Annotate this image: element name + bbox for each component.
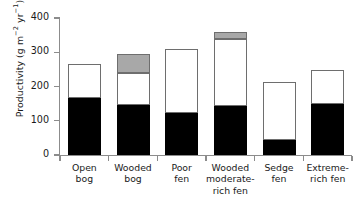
bar-segment-black[interactable]: [311, 104, 344, 155]
x-axis-label-line: rich fen: [199, 185, 261, 196]
bar-segment-black[interactable]: [68, 98, 101, 155]
x-axis-tick: [205, 156, 206, 161]
bar-group[interactable]: [117, 18, 150, 155]
bar-segment-white[interactable]: [311, 70, 344, 103]
x-axis-tick: [108, 156, 109, 161]
x-axis-label-line: rich fen: [297, 173, 359, 184]
bar-segment-white[interactable]: [214, 39, 247, 106]
bar-segment-white[interactable]: [117, 73, 150, 106]
bar-segment-black[interactable]: [117, 105, 150, 155]
y-axis-tick: [54, 86, 59, 87]
bar-segment-white[interactable]: [68, 64, 101, 98]
y-axis-title-sup-m2: −2: [12, 26, 20, 36]
x-axis-tick: [351, 156, 352, 161]
bar-group[interactable]: [263, 18, 296, 155]
bar-group[interactable]: [68, 18, 101, 155]
x-axis-tick: [157, 156, 158, 161]
y-axis-tick-label: 0: [9, 149, 49, 159]
productivity-bar-chart: Productivity (g m−2 yr−1) 0100200300400 …: [0, 0, 359, 208]
y-axis-tick: [54, 52, 59, 53]
bar-segment-black[interactable]: [165, 113, 198, 155]
x-axis-tick: [254, 156, 255, 161]
x-axis-tick: [303, 156, 304, 161]
x-axis-tick: [59, 156, 60, 161]
y-axis-tick: [54, 17, 59, 18]
bar-group[interactable]: [214, 18, 247, 155]
y-axis-tick-label: 400: [9, 12, 49, 22]
x-axis-label: Extreme-rich fen: [297, 162, 359, 185]
bar-segment-white[interactable]: [165, 49, 198, 113]
bar-segment-white[interactable]: [263, 82, 296, 140]
bar-group[interactable]: [311, 18, 344, 155]
bar-segment-gray[interactable]: [117, 54, 150, 73]
y-axis-tick-label: 300: [9, 46, 49, 56]
y-axis-tick-label: 200: [9, 81, 49, 91]
bar-segment-black[interactable]: [263, 140, 296, 155]
y-axis-title-suffix: ): [14, 0, 25, 4]
bar-segment-black[interactable]: [214, 106, 247, 155]
bar-segment-gray[interactable]: [214, 32, 247, 39]
y-axis-tick: [54, 120, 59, 121]
y-axis-line: [59, 17, 60, 156]
y-axis-tick: [54, 154, 59, 155]
bar-group[interactable]: [165, 18, 198, 155]
y-axis-tick-label: 100: [9, 115, 49, 125]
x-axis-label-line: Extreme-: [297, 162, 359, 173]
